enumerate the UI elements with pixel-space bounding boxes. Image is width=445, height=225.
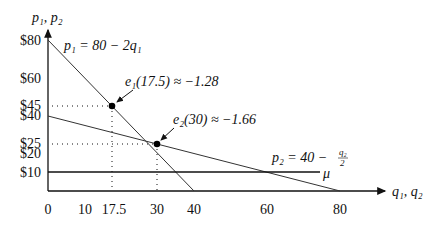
- arrow-e1: [117, 90, 133, 102]
- x-tick-10: 10: [78, 202, 92, 217]
- point-e1: [109, 103, 116, 110]
- x-tick-80: 80: [333, 202, 347, 217]
- p2-equation: p₂ = 40 −: [271, 150, 327, 165]
- y-tick-labels: $80 $60 $45 $40 $25 $20 $10: [20, 33, 41, 180]
- x-tick-60: 60: [260, 202, 274, 217]
- x-tick-30: 30: [150, 202, 164, 217]
- y-tick-10: $10: [20, 165, 41, 180]
- p2-frac-num: q₂: [339, 147, 347, 157]
- y-tick-20: $20: [20, 146, 41, 161]
- x-tick-labels: 0 10 17.5 30 40 60 80: [45, 202, 348, 217]
- arrow-e2: [161, 128, 174, 140]
- x-axis-label: q₁, q₂: [392, 184, 423, 199]
- e1-label: e₁(17.5) ≈ −1.28: [125, 74, 219, 90]
- y-tick-80: $80: [20, 33, 41, 48]
- p2-frac-den: 2: [340, 158, 345, 168]
- e2-label: e₂(30) ≈ −1.66: [173, 112, 256, 128]
- p1-equation: p₁ = 80 − 2q₁: [63, 38, 142, 53]
- y-tick-40: $40: [20, 108, 41, 123]
- chart: p₁, p₂ q₁, q₂ p₁ = 80 − 2q₁ p₂ = 40 − q₂…: [0, 0, 445, 225]
- y-tick-60: $60: [20, 71, 41, 86]
- x-tick-40: 40: [187, 202, 201, 217]
- y-axis-label: p₁, p₂: [31, 10, 63, 25]
- mu-label: μ: [322, 166, 330, 181]
- x-tick-0: 0: [45, 202, 52, 217]
- x-tick-17.5: 17.5: [102, 202, 127, 217]
- point-e2: [154, 141, 161, 148]
